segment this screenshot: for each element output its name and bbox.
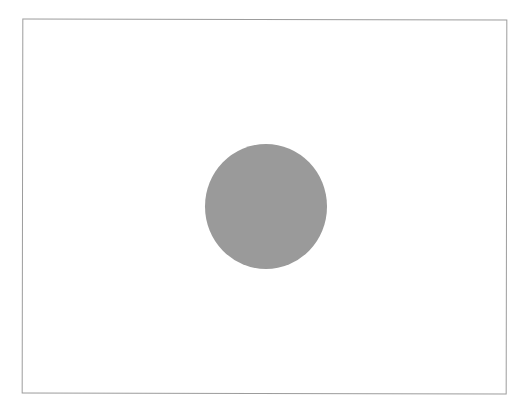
gray-circle bbox=[205, 144, 327, 269]
diagram-canvas bbox=[0, 0, 532, 414]
